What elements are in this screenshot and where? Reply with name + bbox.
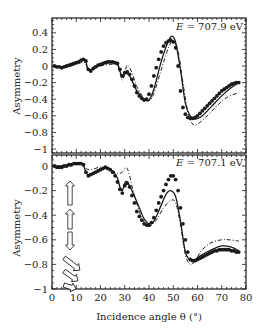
y-tick-label: −0.2 bbox=[24, 77, 48, 88]
up-arrow-icon bbox=[66, 181, 75, 205]
data-point bbox=[120, 191, 124, 195]
up-arrow-icon bbox=[66, 209, 75, 229]
x-tick-label: 20 bbox=[94, 292, 107, 303]
calc-curve-solid bbox=[52, 163, 239, 260]
data-point bbox=[159, 195, 163, 199]
x-tick-label: 0 bbox=[49, 292, 55, 303]
polarization-arrows bbox=[61, 181, 82, 293]
calc-curve-dashdot bbox=[52, 164, 239, 265]
y-tick-label: −0.4 bbox=[24, 94, 48, 105]
data-point bbox=[133, 201, 137, 205]
top-panel: 0.40.20−0.2−0.4−0.6−0.8−1 bbox=[24, 18, 246, 155]
y-tick-label: 0 bbox=[42, 161, 48, 172]
calc-curve-dashdot bbox=[52, 41, 239, 125]
data-point bbox=[152, 74, 156, 78]
data-point bbox=[179, 89, 183, 93]
y-tick-label: −1 bbox=[33, 284, 48, 295]
y-tick-label: 0 bbox=[42, 61, 48, 72]
data-point bbox=[162, 189, 166, 193]
data-point bbox=[183, 112, 187, 116]
data-point bbox=[154, 208, 158, 212]
calc-curve-solid bbox=[52, 36, 239, 119]
bottom-panel: 0−0.2−0.4−0.6−0.8−101020304050607080 bbox=[24, 155, 253, 303]
data-point bbox=[176, 189, 180, 193]
energy-annotation-top: E = 707.9 eV bbox=[175, 21, 244, 32]
x-tick-label: 60 bbox=[191, 292, 204, 303]
data-point bbox=[186, 250, 190, 254]
data-point bbox=[147, 92, 151, 96]
y-axis-title-bottom: Asymmetry bbox=[11, 199, 22, 258]
x-axis-title: Incidence angle θ (°) bbox=[96, 311, 202, 322]
x-tick-label: 30 bbox=[118, 292, 131, 303]
y-tick-label: −0.4 bbox=[24, 210, 48, 221]
x-tick-label: 50 bbox=[167, 292, 180, 303]
y-tick-label: 0.2 bbox=[32, 44, 48, 55]
x-tick-label: 10 bbox=[70, 292, 83, 303]
y-tick-label: −1 bbox=[33, 144, 48, 155]
plot-frame bbox=[52, 18, 246, 153]
down-arrow-icon bbox=[66, 232, 75, 250]
y-tick-label: −0.2 bbox=[24, 185, 48, 196]
y-axis-title-top: Asymmetry bbox=[11, 57, 22, 116]
data-point bbox=[157, 201, 161, 205]
data-point bbox=[162, 44, 166, 48]
x-tick-label: 70 bbox=[215, 292, 228, 303]
data-point bbox=[181, 106, 185, 110]
y-tick-label: −0.8 bbox=[24, 127, 48, 138]
plot-frame bbox=[52, 155, 246, 289]
data-point bbox=[150, 84, 154, 88]
y-tick-label: −0.6 bbox=[24, 110, 48, 121]
y-tick-label: 0.4 bbox=[32, 27, 48, 38]
data-point bbox=[154, 66, 158, 70]
data-point bbox=[157, 57, 161, 61]
y-tick-label: −0.6 bbox=[24, 234, 48, 245]
data-point bbox=[179, 206, 183, 210]
data-point bbox=[167, 178, 171, 182]
data-point bbox=[159, 50, 163, 54]
x-tick-label: 40 bbox=[143, 292, 156, 303]
data-point bbox=[137, 215, 141, 219]
x-tick-label: 80 bbox=[240, 292, 253, 303]
data-point bbox=[171, 174, 175, 178]
data-point bbox=[164, 183, 168, 187]
data-point bbox=[174, 178, 178, 182]
y-tick-label: −0.8 bbox=[24, 259, 48, 270]
energy-annotation-bottom: E = 707.1 eV bbox=[175, 157, 244, 168]
asymmetry-chart: 0.40.20−0.2−0.4−0.6−0.8−1 0−0.2−0.4−0.6−… bbox=[0, 0, 262, 329]
data-point bbox=[135, 210, 139, 214]
